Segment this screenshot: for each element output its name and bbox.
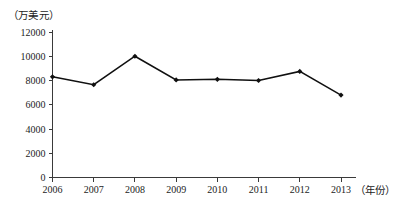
x-axis-tick-label: 2009 — [166, 184, 186, 195]
y-axis-tick-label: 6000 — [26, 99, 46, 110]
y-axis-tick-label: 8000 — [26, 75, 46, 86]
x-axis-tick-label: 2010 — [207, 184, 227, 195]
line-chart-figure: （万美元） （年份） 020004000600080001000012000 2… — [0, 0, 407, 207]
x-axis-tick-label: 2011 — [249, 184, 269, 195]
x-axis-tick-label: 2008 — [125, 184, 145, 195]
data-point-marker — [256, 78, 261, 83]
chart-plot-area: 020004000600080001000012000 200620072008… — [0, 0, 407, 207]
data-point-marker — [215, 77, 220, 82]
data-series-line — [53, 56, 342, 95]
y-axis-tick-label: 0 — [41, 172, 46, 183]
y-axis-tick-label: 2000 — [26, 148, 46, 159]
y-axis-tick-label: 12000 — [21, 27, 46, 38]
y-axis-tick-label: 4000 — [26, 124, 46, 135]
x-axis-tick-label: 2007 — [84, 184, 104, 195]
x-axis-tick-label: 2013 — [331, 184, 351, 195]
data-point-markers — [50, 54, 344, 98]
x-axis-tick-label: 2012 — [290, 184, 310, 195]
y-axis-tick-group: 020004000600080001000012000 — [21, 27, 53, 184]
data-point-marker — [50, 74, 55, 79]
x-axis-tick-label: 2006 — [43, 184, 63, 195]
y-axis-tick-label: 10000 — [21, 51, 46, 62]
x-axis-tick-group: 20062007200820092010201120122013 — [43, 178, 352, 195]
